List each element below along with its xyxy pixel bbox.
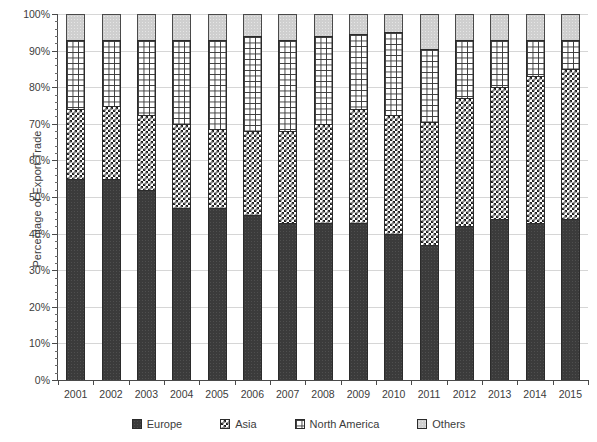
- bar-segment-north-america[interactable]: [208, 40, 227, 130]
- bar-segment-north-america[interactable]: [349, 34, 368, 109]
- bar-segment-europe[interactable]: [384, 234, 403, 380]
- bar-segment-others[interactable]: [384, 14, 403, 32]
- bar-segment-north-america[interactable]: [102, 40, 121, 106]
- legend-item-europe[interactable]: Europe: [132, 418, 182, 430]
- bar-group[interactable]: [172, 14, 191, 380]
- stacked-bar[interactable]: [102, 14, 121, 380]
- stacked-bar[interactable]: [526, 14, 545, 380]
- bar-segment-others[interactable]: [561, 14, 580, 40]
- bar-segment-asia[interactable]: [66, 109, 85, 179]
- bar-group[interactable]: [420, 14, 439, 380]
- bar-group[interactable]: [102, 14, 121, 380]
- bar-segment-asia[interactable]: [172, 124, 191, 208]
- stacked-bar[interactable]: [66, 14, 85, 380]
- bar-segment-others[interactable]: [349, 14, 368, 34]
- bar-segment-north-america[interactable]: [526, 40, 545, 77]
- bar-segment-others[interactable]: [314, 14, 333, 36]
- bar-segment-europe[interactable]: [208, 208, 227, 380]
- bar-segment-others[interactable]: [526, 14, 545, 40]
- bar-segment-others[interactable]: [278, 14, 297, 40]
- bar-group[interactable]: [278, 14, 297, 380]
- bar-group[interactable]: [384, 14, 403, 380]
- bar-group[interactable]: [208, 14, 227, 380]
- y-axis-minor-tick: [55, 146, 59, 147]
- bar-segment-north-america[interactable]: [384, 32, 403, 114]
- y-axis-tick-label: 90%: [29, 45, 50, 57]
- stacked-bar[interactable]: [384, 14, 403, 380]
- stacked-bar[interactable]: [172, 14, 191, 380]
- x-axis-tick-label: 2002: [99, 388, 122, 400]
- bar-segment-europe[interactable]: [102, 179, 121, 380]
- bar-segment-asia[interactable]: [455, 98, 474, 226]
- bar-segment-north-america[interactable]: [420, 49, 439, 122]
- bar-segment-north-america[interactable]: [243, 36, 262, 131]
- bar-group[interactable]: [243, 14, 262, 380]
- bar-segment-asia[interactable]: [420, 122, 439, 245]
- bar-segment-asia[interactable]: [314, 124, 333, 223]
- bar-segment-europe[interactable]: [137, 190, 156, 380]
- bar-segment-europe[interactable]: [66, 179, 85, 380]
- stacked-bar[interactable]: [208, 14, 227, 380]
- bar-segment-others[interactable]: [490, 14, 509, 40]
- bar-group[interactable]: [490, 14, 509, 380]
- bar-segment-asia[interactable]: [526, 76, 545, 222]
- bar-segment-north-america[interactable]: [172, 40, 191, 124]
- bar-segment-north-america[interactable]: [278, 40, 297, 132]
- bar-segment-north-america[interactable]: [561, 40, 580, 69]
- bar-segment-others[interactable]: [172, 14, 191, 40]
- bar-segment-asia[interactable]: [243, 131, 262, 215]
- stacked-bar[interactable]: [278, 14, 297, 380]
- bar-segment-others[interactable]: [102, 14, 121, 40]
- stacked-bar[interactable]: [420, 14, 439, 380]
- bar-segment-others[interactable]: [455, 14, 474, 40]
- bar-segment-north-america[interactable]: [490, 40, 509, 88]
- bar-segment-others[interactable]: [243, 14, 262, 36]
- bar-segment-others[interactable]: [137, 14, 156, 40]
- bar-segment-others[interactable]: [420, 14, 439, 49]
- legend-item-asia[interactable]: Asia: [220, 418, 256, 430]
- bar-segment-europe[interactable]: [526, 223, 545, 380]
- bar-segment-asia[interactable]: [384, 115, 403, 234]
- bar-segment-others[interactable]: [66, 14, 85, 40]
- bar-segment-europe[interactable]: [278, 223, 297, 380]
- bar-segment-asia[interactable]: [208, 129, 227, 208]
- bar-segment-asia[interactable]: [490, 87, 509, 219]
- stacked-bar[interactable]: [455, 14, 474, 380]
- legend-item-north-america[interactable]: North America: [295, 418, 380, 430]
- bar-group[interactable]: [455, 14, 474, 380]
- bar-segment-europe[interactable]: [420, 245, 439, 380]
- y-axis-minor-tick: [55, 65, 59, 66]
- bar-segment-north-america[interactable]: [137, 40, 156, 115]
- bar-segment-north-america[interactable]: [314, 36, 333, 124]
- bar-segment-europe[interactable]: [349, 223, 368, 380]
- bar-group[interactable]: [137, 14, 156, 380]
- bar-group[interactable]: [561, 14, 580, 380]
- bar-group[interactable]: [314, 14, 333, 380]
- bar-segment-europe[interactable]: [314, 223, 333, 380]
- stacked-bar[interactable]: [490, 14, 509, 380]
- bar-segment-asia[interactable]: [278, 131, 297, 223]
- bar-segment-asia[interactable]: [349, 109, 368, 222]
- bar-segment-europe[interactable]: [172, 208, 191, 380]
- bar-segment-north-america[interactable]: [455, 40, 474, 99]
- bar-segment-asia[interactable]: [561, 69, 580, 219]
- bar-segment-europe[interactable]: [243, 215, 262, 380]
- bar-group[interactable]: [526, 14, 545, 380]
- bar-segment-asia[interactable]: [102, 106, 121, 179]
- bar-segment-europe[interactable]: [561, 219, 580, 380]
- bar-segment-europe[interactable]: [455, 226, 474, 380]
- bar-segment-north-america[interactable]: [66, 40, 85, 110]
- legend-item-others[interactable]: Others: [417, 418, 465, 430]
- bar-group[interactable]: [66, 14, 85, 380]
- stacked-bar[interactable]: [137, 14, 156, 380]
- stacked-bar[interactable]: [314, 14, 333, 380]
- bar-segment-europe[interactable]: [490, 219, 509, 380]
- stacked-bar[interactable]: [561, 14, 580, 380]
- bar-segment-others[interactable]: [208, 14, 227, 40]
- y-axis-tick: [52, 343, 58, 344]
- stacked-bar[interactable]: [243, 14, 262, 380]
- bar-group[interactable]: [349, 14, 368, 380]
- stacked-bar[interactable]: [349, 14, 368, 380]
- legend-swatch-icon: [220, 419, 230, 429]
- bar-segment-asia[interactable]: [137, 115, 156, 190]
